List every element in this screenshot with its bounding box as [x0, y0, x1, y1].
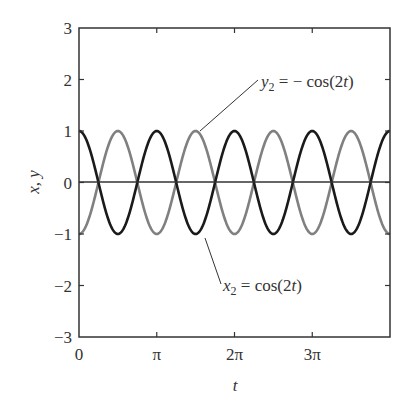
- y-tick-label: −2: [54, 277, 72, 296]
- y-tick-label: 3: [64, 19, 73, 38]
- y-axis-label: x, y: [24, 170, 43, 195]
- annotation-leader-y2: [200, 80, 258, 131]
- x-tick-label: π: [152, 345, 161, 364]
- y-tick-label: 2: [64, 71, 73, 90]
- annotation-y2: y2 = − cos(2t): [259, 72, 354, 94]
- tick-labels: 0π2π3π3210−1−2−3: [54, 19, 321, 364]
- x-tick-label: 3π: [304, 345, 322, 364]
- annotation-leader-x2: [205, 238, 221, 284]
- x-tick-label: 2π: [226, 345, 244, 364]
- annotation-x2: x2 = cos(2t): [222, 276, 302, 298]
- y-tick-label: −1: [54, 225, 72, 244]
- y-tick-label: −3: [54, 328, 72, 347]
- y-tick-label: 0: [64, 174, 73, 193]
- chart: 0π2π3π3210−1−2−3 t x, y y2 = − cos(2t) x…: [0, 0, 412, 411]
- x-tick-label: 0: [75, 345, 84, 364]
- y-tick-label: 1: [64, 122, 73, 141]
- x-axis-label: t: [233, 376, 239, 395]
